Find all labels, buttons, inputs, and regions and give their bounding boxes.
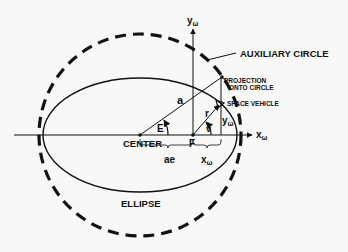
projection-label-line1: PROJECTION xyxy=(224,77,267,84)
auxiliary-circle-label: AUXILIARY CIRCLE xyxy=(240,48,329,59)
a-label: a xyxy=(177,94,184,106)
focus-point xyxy=(191,133,195,137)
space-vehicle-label: SPACE VEHICLE xyxy=(227,100,280,107)
projection-label-line2: ONTO CIRCLE xyxy=(229,84,274,91)
center-label: CENTER xyxy=(123,138,162,149)
diagram-svg: yω xω AUXILIARY CIRCLE PROJECTION ONTO C… xyxy=(0,0,348,252)
ae-label: ae xyxy=(164,154,176,165)
center-point xyxy=(138,133,142,137)
orbit-geometry-diagram: yω xω AUXILIARY CIRCLE PROJECTION ONTO C… xyxy=(0,0,348,252)
x-axis-label: xω xyxy=(256,129,268,141)
r-label: r xyxy=(205,108,209,119)
focus-label: F xyxy=(189,138,195,149)
v-angle-label: v xyxy=(206,124,211,134)
x-omega-brace xyxy=(193,139,221,148)
y-axis-label: yω xyxy=(187,15,199,27)
angle-e-arc xyxy=(164,120,168,135)
x-omega-label: xω xyxy=(201,154,213,166)
e-angle-label: E xyxy=(157,123,164,134)
aux-circle-leader xyxy=(207,53,236,60)
ellipse-label: ELLIPSE xyxy=(121,198,161,209)
